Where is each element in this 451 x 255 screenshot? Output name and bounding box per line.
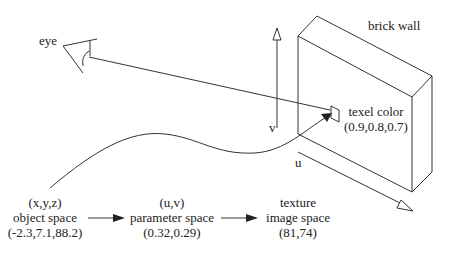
pipeline-stage-object-space: (x,y,z) object space (-2.3,7.1,88.2) bbox=[8, 195, 83, 240]
pipeline-arrow bbox=[88, 214, 125, 222]
brick-wall-label: brick wall bbox=[368, 19, 420, 33]
texel-color-title: texel color bbox=[344, 104, 408, 119]
stage-top: texture bbox=[266, 195, 330, 210]
eye-label: eye bbox=[39, 34, 57, 48]
stage-value: (0.32,0.29) bbox=[130, 225, 214, 240]
pipeline-arrow bbox=[221, 214, 258, 222]
stage-name: image space bbox=[266, 210, 330, 225]
eye-icon bbox=[63, 39, 97, 73]
texel-square bbox=[331, 106, 339, 122]
view-ray bbox=[89, 57, 330, 110]
v-axis-label: v bbox=[269, 121, 276, 135]
texel-color-value: (0.9,0.8,0.7) bbox=[344, 119, 408, 134]
stage-name: object space bbox=[8, 210, 83, 225]
stage-value: (-2.3,7.1,88.2) bbox=[8, 225, 83, 240]
stage-value: (81,74) bbox=[266, 225, 330, 240]
texel-color-label: texel color (0.9,0.8,0.7) bbox=[344, 104, 408, 134]
pipeline-stage-parameter-space: (u,v) parameter space (0.32,0.29) bbox=[130, 195, 214, 240]
v-axis-arrow bbox=[273, 28, 281, 128]
stage-name: parameter space bbox=[130, 210, 214, 225]
u-axis-label: u bbox=[295, 156, 302, 170]
stage-top: (x,y,z) bbox=[8, 195, 83, 210]
stage-top: (u,v) bbox=[130, 195, 214, 210]
mapping-curve-arrow bbox=[50, 113, 332, 188]
pipeline-stage-image-space: texture image space (81,74) bbox=[266, 195, 330, 240]
